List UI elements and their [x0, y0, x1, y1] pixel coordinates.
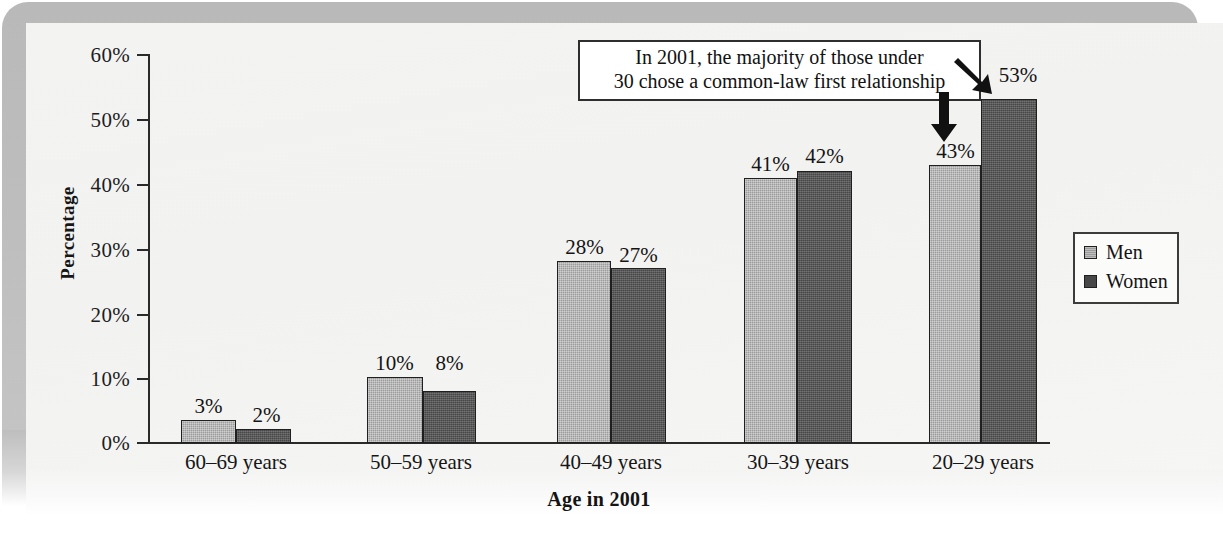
y-tick-10 [137, 378, 148, 380]
y-tick-40 [137, 184, 148, 186]
y-tick-50 [137, 119, 148, 121]
legend-item-men: Men [1084, 241, 1143, 264]
x-tick-label-60-69: 60–69 years [156, 450, 316, 475]
y-tick-20 [137, 314, 148, 316]
annotation-callout: In 2001, the majority of those under 30 … [578, 40, 981, 101]
legend-label-men: Men [1106, 241, 1143, 264]
bar-value-women-60-69: 2% [224, 403, 309, 428]
bar-chart: 60% 50% 40% 30% 20% 10% 0% Percentage Ag… [0, 0, 1223, 539]
legend-item-women: Women [1084, 270, 1168, 293]
y-tick-label-60: 60% [91, 43, 130, 68]
bar-men-50-59 [367, 377, 423, 443]
x-tick-label-40-49: 40–49 years [531, 450, 691, 475]
y-tick-label-50: 50% [91, 108, 130, 133]
bar-women-60-69 [236, 429, 291, 443]
x-tick-label-20-29: 20–29 years [903, 450, 1063, 475]
x-tick-label-50-59: 50–59 years [341, 450, 501, 475]
y-tick-label-30: 30% [91, 238, 130, 263]
x-tick-label-30-39: 30–39 years [718, 450, 878, 475]
legend-swatch-men [1084, 246, 1097, 259]
legend-swatch-women [1084, 275, 1097, 288]
legend: Men Women [1073, 232, 1179, 304]
arrow-down-icon [930, 92, 958, 144]
bar-value-women-40-49: 27% [596, 243, 681, 268]
bar-women-50-59 [423, 391, 476, 443]
bar-women-40-49 [611, 268, 666, 443]
y-axis-title: Percentage [57, 153, 79, 313]
y-tick-60 [137, 54, 148, 56]
y-tick-30 [137, 249, 148, 251]
bar-men-40-49 [557, 261, 611, 443]
figure-root: 60% 50% 40% 30% 20% 10% 0% Percentage Ag… [0, 0, 1223, 539]
y-tick-0 [137, 442, 148, 444]
annotation-line-2: 30 chose a common-law first relationship [586, 70, 973, 94]
y-tick-label-0: 0% [101, 431, 130, 456]
bar-women-30-39 [797, 171, 852, 443]
annotation-line-1: In 2001, the majority of those under [586, 46, 973, 70]
x-axis-title: Age in 2001 [148, 488, 1050, 511]
bar-men-20-29 [929, 165, 981, 443]
legend-label-women: Women [1106, 270, 1168, 293]
bar-men-30-39 [744, 178, 797, 443]
y-axis-line [148, 54, 150, 444]
y-tick-label-40: 40% [91, 173, 130, 198]
bar-value-women-50-59: 8% [412, 351, 487, 376]
y-tick-label-20: 20% [91, 303, 130, 328]
bar-value-women-30-39: 42% [782, 144, 867, 169]
arrow-down-right-icon [956, 52, 1004, 100]
y-tick-label-10: 10% [91, 367, 130, 392]
